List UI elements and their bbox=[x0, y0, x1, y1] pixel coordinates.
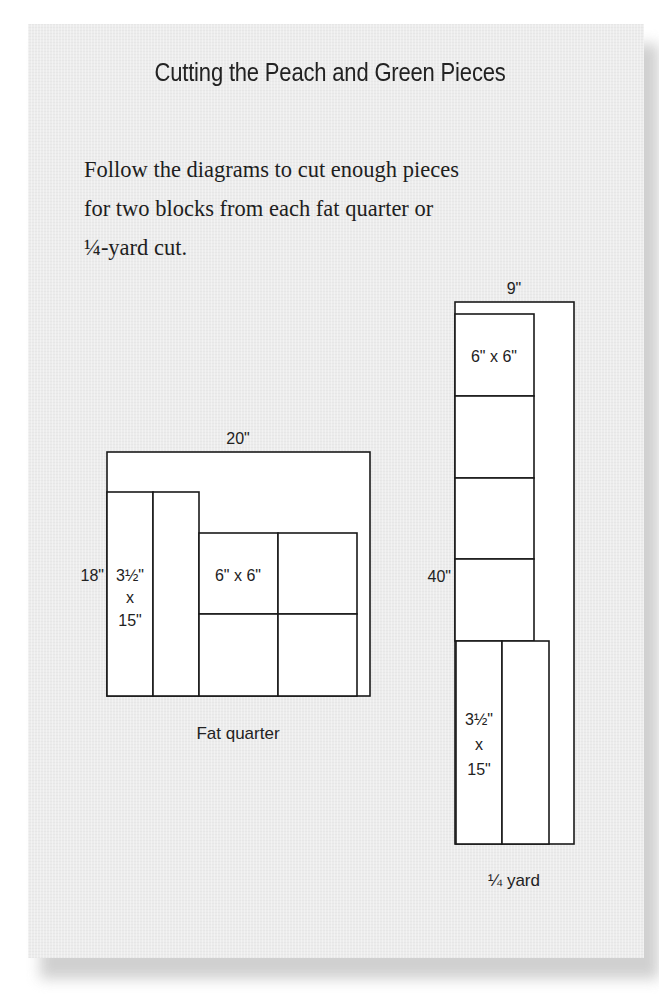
quarter-yard-strip-label-line1: 3½" bbox=[465, 711, 493, 728]
quarter-yard-width-label: 9" bbox=[507, 280, 522, 297]
quarter-yard-strip-2 bbox=[502, 641, 549, 844]
fat-quarter-square-2 bbox=[278, 533, 357, 614]
quarter-yard-caption: ¼ yard bbox=[488, 871, 540, 890]
fat-quarter-strip-label-line2: x bbox=[126, 589, 134, 606]
quarter-yard-strip-label-line3: 15" bbox=[467, 761, 490, 778]
fat-quarter-height-label: 18" bbox=[81, 567, 104, 584]
fat-quarter-width-label: 20" bbox=[226, 430, 249, 447]
fat-quarter-square-label: 6" x 6" bbox=[215, 567, 261, 584]
fat-quarter-strip-label-line3: 15" bbox=[118, 612, 141, 629]
quarter-yard-square-3 bbox=[455, 478, 534, 559]
fat-quarter-strip-label-line1: 3½" bbox=[116, 567, 144, 584]
quarter-yard-square-4 bbox=[455, 559, 534, 641]
fat-quarter-caption: Fat quarter bbox=[196, 724, 279, 743]
quarter-yard-square-label: 6" x 6" bbox=[471, 348, 517, 365]
fat-quarter-strip-2 bbox=[153, 492, 199, 696]
quarter-yard-height-label: 40" bbox=[428, 568, 451, 585]
cutting-diagrams: 20" 18" 3½" x 15" 6" x 6" Fat quarter 9"… bbox=[0, 0, 659, 1002]
fat-quarter-square-3 bbox=[199, 614, 278, 696]
quarter-yard-strip-label-line2: x bbox=[475, 736, 483, 753]
fat-quarter-square-4 bbox=[278, 614, 357, 696]
quarter-yard-square-2 bbox=[455, 396, 534, 478]
